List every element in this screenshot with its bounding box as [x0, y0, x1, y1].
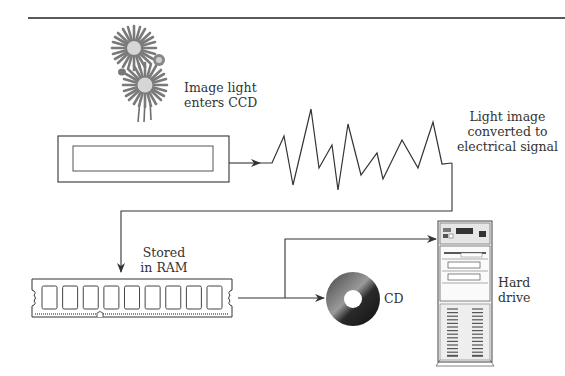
label-hard-drive: Hard drive	[498, 275, 530, 305]
ram-chip	[83, 286, 98, 309]
label-stored-in-ram: Stored in RAM	[134, 245, 194, 275]
label-image-light-enters-ccd: Image light enters CCD	[184, 80, 257, 110]
label-line: electrical signal	[450, 139, 565, 154]
diagram-canvas	[0, 0, 565, 376]
label-line: in RAM	[134, 260, 194, 275]
label-line: enters CCD	[184, 95, 257, 110]
label-line: Hard	[498, 275, 530, 290]
label-line: Light image	[450, 109, 565, 124]
label-line: Stored	[134, 245, 194, 260]
hard-drive-tower-icon	[436, 221, 494, 366]
ram-chip	[63, 286, 78, 309]
ram-chip	[104, 286, 119, 309]
ccd-sensor-icon	[58, 136, 229, 182]
flower-icon	[112, 26, 167, 122]
digital-imaging-diagram: Image light enters CCD Light image conve…	[0, 0, 565, 376]
cd-icon	[326, 272, 380, 326]
ram-chip	[145, 286, 160, 309]
ram-chip	[186, 286, 201, 309]
label-line: CD	[384, 291, 404, 306]
electrical-signal-waveform	[260, 109, 452, 190]
ram-chip	[42, 286, 57, 309]
label-line: drive	[498, 290, 530, 305]
ram-module-icon	[32, 279, 232, 317]
label-light-image-converted: Light image converted to electrical sign…	[450, 109, 565, 154]
ram-chip	[166, 286, 181, 309]
label-line: converted to	[450, 124, 565, 139]
ram-chip	[207, 286, 222, 309]
label-line: Image light	[184, 80, 257, 95]
ram-chip	[125, 286, 140, 309]
label-cd: CD	[384, 291, 404, 306]
